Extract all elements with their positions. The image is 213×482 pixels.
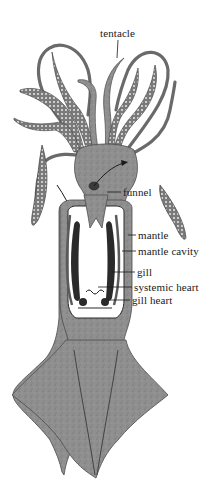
gill-heart-left	[79, 298, 87, 306]
label-mantle-cavity: mantle cavity	[138, 245, 199, 257]
arms	[14, 52, 156, 161]
label-tentacle: tentacle	[100, 27, 135, 39]
label-funnel: funnel	[123, 186, 152, 198]
label-mantle: mantle	[138, 229, 169, 241]
label-gill-heart: gill heart	[132, 294, 172, 306]
label-gill: gill	[137, 266, 152, 278]
gill-heart-right	[101, 298, 109, 306]
fins	[12, 340, 168, 478]
leader-tentacle	[117, 40, 118, 58]
label-systemic-heart: systemic heart	[134, 281, 199, 293]
left-tentacle-club	[32, 145, 47, 225]
squid-anatomy-diagram	[0, 0, 213, 482]
